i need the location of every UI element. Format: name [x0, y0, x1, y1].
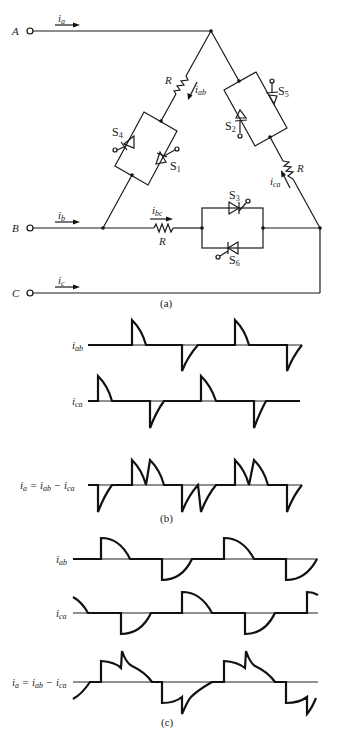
trace-b-ia: [88, 460, 302, 512]
svg-text:ic: ic: [58, 274, 65, 288]
trace-b-iab-label: iab: [72, 339, 83, 353]
resistor-ab: [174, 76, 188, 94]
terminal-b: [27, 225, 33, 231]
trace-c-iab-label: iab: [56, 553, 67, 567]
trace-c-ia-label: ia = iab − ica: [12, 676, 67, 690]
current-arrow-ic: ic: [55, 274, 80, 290]
branch-bc: R ibc S3: [103, 188, 320, 268]
current-arrow-iab: iab: [188, 82, 207, 100]
svg-text:ib: ib: [58, 209, 65, 223]
waveforms-b: iab ica ia = iab − ica (b): [20, 320, 302, 525]
resistor-bc-label: R: [158, 235, 166, 247]
svg-text:S4: S4: [112, 125, 123, 140]
thyristor-s5: S5: [266, 79, 289, 104]
thyristor-s6: S6: [216, 242, 240, 268]
svg-text:S6: S6: [229, 253, 240, 268]
current-arrow-ia: ia: [55, 12, 80, 28]
terminal-a-label: A: [11, 25, 19, 37]
thyristor-s2: S2: [225, 110, 247, 138]
svg-text:S3: S3: [229, 188, 240, 203]
terminal-c-label: C: [12, 287, 20, 299]
svg-text:S5: S5: [278, 84, 289, 99]
switch-box-bc: [202, 208, 263, 248]
thyristor-s3: S3: [229, 188, 250, 214]
switch-box-ab: [115, 112, 177, 185]
trace-b-ica: [88, 376, 300, 428]
trace-c-ica-label: ica: [56, 607, 67, 621]
svg-text:ia: ia: [58, 12, 65, 26]
trace-b-ica-label: ica: [72, 395, 83, 409]
current-arrow-ica: ica: [270, 170, 290, 189]
circuit-diagram: A ia B ib C ic: [11, 12, 322, 310]
svg-text:ibc: ibc: [152, 204, 163, 218]
svg-text:iab: iab: [195, 83, 206, 97]
svg-text:ica: ica: [270, 175, 281, 189]
terminal-b-label: B: [12, 222, 19, 234]
branch-ca: R ica S5 S2: [211, 31, 320, 228]
figure-canvas: A ia B ib C ic: [0, 0, 339, 731]
trace-b-ia-label: ia = iab − ica: [20, 479, 75, 493]
resistor-bc: [154, 224, 173, 232]
caption-b: (b): [160, 512, 173, 525]
caption-a: (a): [160, 297, 173, 310]
resistor-ca-label: R: [296, 162, 304, 174]
thyristor-s1: S1: [156, 147, 181, 174]
svg-text:S1: S1: [170, 159, 181, 174]
waveforms-c: iab ica ia = iab − ica (c): [12, 538, 318, 729]
branch-ab: R iab S4: [103, 31, 211, 228]
current-arrow-ib: ib: [55, 209, 80, 225]
caption-c: (c): [161, 716, 174, 729]
svg-text:S2: S2: [225, 119, 236, 134]
thyristor-s4: S4: [112, 125, 134, 152]
resistor-ab-label: R: [164, 74, 172, 86]
current-arrow-ibc: ibc: [150, 204, 173, 222]
terminal-a: [27, 28, 33, 34]
terminal-c: [27, 290, 33, 296]
